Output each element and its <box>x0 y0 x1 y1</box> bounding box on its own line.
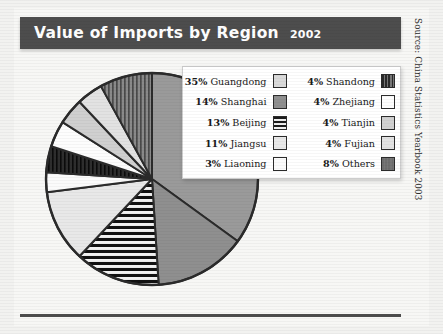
legend-label-beijing: 13% Beijing <box>183 117 273 128</box>
legend-label-liaoning: 3% Liaoning <box>183 158 273 169</box>
legend-label-others: 8% Others <box>292 158 382 169</box>
legend-swatch-liaoning <box>273 157 287 171</box>
legend-item-jiangsu[interactable]: 11% Jiangsu <box>183 136 292 150</box>
legend-row: 3% Liaoning 8% Others <box>183 153 400 174</box>
legend-item-others[interactable]: 8% Others <box>292 157 401 171</box>
legend-label-jiangsu: 11% Jiangsu <box>183 138 273 149</box>
legend-item-shandong[interactable]: 4% Shandong <box>292 74 401 88</box>
legend-swatch-tianjin <box>381 116 395 130</box>
legend-swatch-shanghai <box>273 95 287 109</box>
legend-swatch-others <box>381 157 395 171</box>
legend-label-tianjin: 4% Tianjin <box>292 117 382 128</box>
legend-row: 35% Guangdong 4% Shandong <box>183 71 400 92</box>
legend-swatch-beijing <box>273 116 287 130</box>
chart-title-bar: Value of Imports by Region 2002 <box>20 17 401 49</box>
bottom-divider <box>20 314 401 317</box>
legend-row: 11% Jiangsu 4% Fujian <box>183 133 400 154</box>
legend-row: 13% Beijing 4% Tianjin <box>183 112 400 133</box>
legend-swatch-zhejiang <box>381 95 395 109</box>
chart-legend: 35% Guangdong 4% Shandong 14% Shanghai 4… <box>182 66 401 179</box>
legend-swatch-guangdong <box>273 74 287 88</box>
legend-item-liaoning[interactable]: 3% Liaoning <box>183 157 292 171</box>
source-attribution-label: Source: China Statistics Yearbook 2003 <box>413 18 423 200</box>
page-title: Value of Imports by Region <box>34 24 279 42</box>
legend-label-fujian: 4% Fujian <box>292 138 382 149</box>
source-attribution: Source: China Statistics Yearbook 2003 <box>423 18 439 233</box>
legend-label-zhejiang: 4% Zhejiang <box>292 96 382 107</box>
legend-label-shanghai: 14% Shanghai <box>183 96 273 107</box>
title-year: 2002 <box>290 28 321 41</box>
legend-swatch-jiangsu <box>273 136 287 150</box>
legend-swatch-fujian <box>381 136 395 150</box>
legend-item-beijing[interactable]: 13% Beijing <box>183 116 292 130</box>
legend-item-shanghai[interactable]: 14% Shanghai <box>183 95 292 109</box>
legend-item-fujian[interactable]: 4% Fujian <box>292 136 401 150</box>
legend-label-guangdong: 35% Guangdong <box>183 76 273 87</box>
legend-item-guangdong[interactable]: 35% Guangdong <box>183 74 292 88</box>
legend-swatch-shandong <box>381 74 395 88</box>
legend-item-tianjin[interactable]: 4% Tianjin <box>292 116 401 130</box>
legend-item-zhejiang[interactable]: 4% Zhejiang <box>292 95 401 109</box>
legend-label-shandong: 4% Shandong <box>292 76 382 87</box>
legend-row: 14% Shanghai 4% Zhejiang <box>183 92 400 113</box>
